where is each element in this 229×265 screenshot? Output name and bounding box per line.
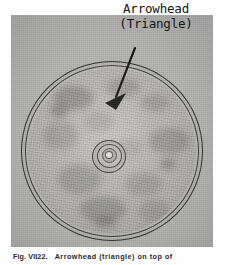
figure-caption-text: Arrowhead (triangle) on top of	[55, 252, 173, 261]
disc-hub-core	[106, 152, 112, 158]
disc-blotch	[106, 78, 140, 98]
disc-blotch	[94, 216, 116, 228]
disc-blotch	[140, 94, 170, 112]
annotation-label-line-2: (Triangle)	[100, 16, 212, 31]
annotation-label: Arrowhead (Triangle)	[100, 1, 212, 31]
disc-blotch	[84, 112, 114, 132]
figure-caption-number: Fig. VII22.	[13, 252, 48, 261]
disc-blotch	[124, 172, 162, 196]
disc-blotch	[58, 164, 102, 194]
disc-blotch	[50, 104, 68, 118]
figure-caption: Fig. VII22.Arrowhead (triangle) on top o…	[13, 252, 218, 261]
figure-photograph	[11, 15, 213, 247]
disc-blotch	[138, 200, 170, 222]
annotation-label-line-1: Arrowhead	[100, 1, 212, 16]
disc-blotch	[148, 128, 190, 154]
page-sheet: Arrowhead (Triangle) Fig. VII22.Arrowhea…	[0, 0, 229, 265]
disc-blotch	[42, 122, 78, 150]
disc-blotch	[160, 158, 176, 170]
